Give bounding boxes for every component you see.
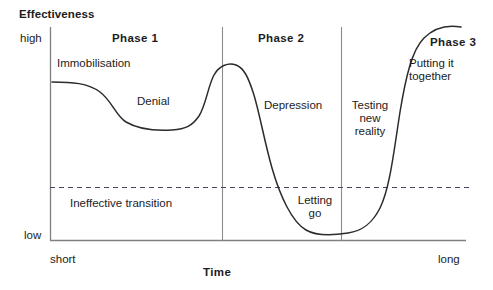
- x-tick-short: short: [50, 253, 76, 266]
- x-axis-label: Time: [203, 266, 231, 279]
- phase-1-label: Phase 1: [112, 32, 158, 45]
- annotation-testing-new-reality: Testing new reality: [347, 99, 393, 138]
- y-tick-low: low: [24, 229, 41, 242]
- annotation-ineffective-transition: Ineffective transition: [70, 197, 172, 210]
- x-tick-long: long: [438, 253, 460, 266]
- annotation-depression: Depression: [264, 99, 322, 112]
- page-title: Effectiveness: [19, 8, 94, 21]
- phase-3-label: Phase 3: [430, 36, 476, 49]
- annotation-immobilisation: Immobilisation: [57, 57, 131, 70]
- annotation-putting-it-together: Putting it together: [409, 57, 454, 83]
- y-tick-high: high: [20, 32, 42, 45]
- annotation-letting-go: Letting go: [288, 194, 342, 220]
- phase-2-label: Phase 2: [258, 32, 304, 45]
- annotation-denial: Denial: [137, 95, 170, 108]
- transition-curve-figure: Effectiveness high low short long Time P…: [0, 0, 493, 290]
- chart-canvas: [0, 0, 493, 290]
